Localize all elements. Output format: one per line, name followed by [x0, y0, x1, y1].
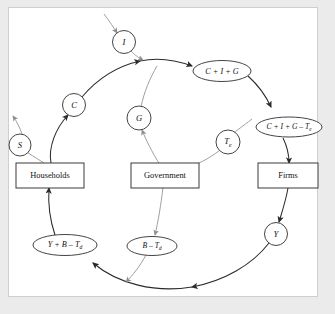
circle-nodes	[9, 31, 288, 246]
flow-spending-to-circle	[141, 66, 157, 107]
node-government-spending	[127, 106, 151, 130]
node-net-transfers	[127, 237, 177, 256]
label-government: Government	[144, 171, 186, 180]
node-national-income	[265, 223, 288, 246]
node-savings	[9, 134, 31, 156]
node-disposable-income	[33, 235, 97, 256]
flow-income-to-bottom	[192, 243, 269, 287]
label-households: Households	[30, 171, 70, 180]
flow-transfers-to-bottom	[126, 255, 146, 282]
flow-aggregate-expenditure-to-edge	[248, 76, 271, 107]
flow-households-to-consumption	[50, 115, 68, 163]
node-expenditure-net-of-taxes	[256, 117, 322, 137]
node-consumption	[63, 94, 86, 117]
flow-investment-to-circle	[131, 51, 143, 60]
flow-firms-to-income	[279, 188, 288, 222]
label-firms: Firms	[278, 171, 298, 180]
flow-government-to-transfers	[155, 187, 163, 235]
flow-consumption-to-top	[82, 61, 140, 97]
flow-savings-leakage	[13, 116, 22, 134]
diagram-page: Households Government Firms S C I G Te Y…	[0, 0, 335, 314]
node-investment	[113, 31, 136, 54]
flow-disposable-income-to-households	[49, 188, 55, 235]
flow-top-to-aggregate-expenditure	[140, 59, 192, 66]
flow-external-injection-to-investment	[104, 14, 117, 33]
flow-bottom-to-disposable-income	[93, 263, 192, 289]
flow-government-to-spending	[142, 130, 160, 165]
node-expenditure-taxes	[216, 130, 240, 154]
node-aggregate-expenditure	[193, 61, 251, 82]
flow-edge-to-firms	[283, 138, 289, 163]
circular-flow-diagram	[0, 0, 335, 314]
